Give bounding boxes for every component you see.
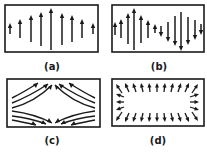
arrowhead-icon [163, 117, 167, 122]
arrowhead-icon [159, 32, 163, 37]
arrowhead-icon [116, 94, 121, 98]
arrowhead-icon [55, 85, 59, 90]
arrowhead-icon [140, 83, 144, 88]
panel-d-radial-field [112, 79, 204, 126]
arrowhead-icon [146, 20, 150, 25]
arrowhead-icon [8, 23, 12, 28]
arrowhead-icon [195, 100, 200, 104]
arrowhead-icon [193, 35, 197, 40]
panel-label-b: (b) [151, 62, 167, 72]
arrowhead-icon [47, 118, 52, 123]
arrowhead-icon [140, 117, 144, 122]
panel-b-full-wave-field [112, 5, 204, 52]
arrowhead-icon [133, 117, 137, 122]
arrowhead-icon [55, 118, 60, 123]
arrowhead-icon [148, 117, 152, 122]
panel-label-d: (d) [150, 136, 166, 146]
panel-frame [7, 79, 100, 127]
arrowhead-icon [31, 121, 36, 125]
arrowhead-icon [163, 83, 167, 88]
panel-a-half-wave-field [5, 5, 98, 52]
arrowhead-icon [113, 22, 117, 27]
arrowhead-icon [194, 107, 199, 111]
arrowhead-icon [155, 118, 159, 123]
arrowhead-icon [155, 83, 159, 88]
arrowhead-icon [170, 83, 174, 88]
arrowhead-icon [178, 117, 182, 122]
arrowhead-icon [71, 121, 76, 125]
panel-frame [112, 5, 204, 52]
arrowhead-icon [119, 19, 123, 24]
arrowhead-icon [70, 15, 74, 20]
arrowhead-icon [153, 24, 157, 29]
arrowhead-icon [133, 83, 137, 88]
arrowhead-icon [116, 107, 121, 111]
arrowhead-icon [148, 83, 152, 88]
panel-label-c: (c) [44, 136, 59, 146]
field-pattern-diagram [0, 0, 207, 155]
arrowhead-icon [60, 13, 64, 18]
arrowhead-icon [116, 100, 121, 104]
arrowhead-icon [18, 19, 22, 24]
arrowhead-icon [139, 15, 143, 20]
arrowhead-icon [29, 15, 33, 20]
arrowhead-icon [170, 117, 174, 122]
arrowhead-icon [49, 8, 53, 13]
arrowhead-icon [91, 23, 95, 28]
arrowhead-icon [126, 13, 130, 18]
arrowhead-icon [178, 83, 182, 88]
panel-label-a: (a) [44, 62, 60, 72]
arrowhead-icon [186, 40, 190, 45]
panel-c-hyperbolic-field-lines [7, 79, 100, 127]
arrowhead-icon [166, 37, 170, 42]
arrowhead-icon [173, 41, 177, 46]
arrowhead-icon [194, 94, 199, 98]
arrowhead-icon [39, 12, 43, 17]
arrowhead-icon [199, 30, 203, 35]
arrowhead-icon [179, 46, 183, 51]
arrowhead-icon [132, 8, 136, 13]
arrowhead-icon [48, 85, 52, 90]
arrowhead-icon [80, 19, 84, 24]
